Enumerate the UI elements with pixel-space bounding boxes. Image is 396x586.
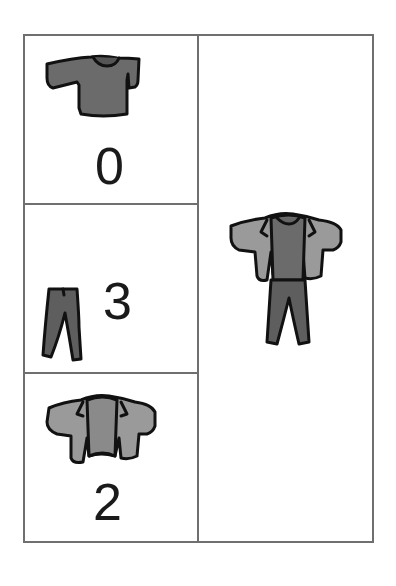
outfit-icon xyxy=(227,212,351,352)
diagram-frame: 0 3 2 xyxy=(23,34,374,543)
jacket-icon xyxy=(43,394,161,466)
panel-pants: 3 xyxy=(25,205,197,372)
count-label: 0 xyxy=(95,140,124,192)
panel-jacket: 2 xyxy=(25,374,197,541)
count-label: 2 xyxy=(93,476,122,528)
pants-icon xyxy=(39,287,89,365)
panel-outfit xyxy=(199,36,372,541)
count-label: 3 xyxy=(103,275,132,327)
panel-tshirt: 0 xyxy=(25,36,197,203)
tshirt-icon xyxy=(43,52,143,124)
